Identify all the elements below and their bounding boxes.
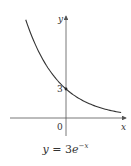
caption-exponent: −x: [79, 142, 89, 150]
y-axis-label: y: [57, 14, 64, 24]
caption-eq: = 3: [49, 143, 72, 156]
y-intercept-label: 3: [57, 84, 63, 94]
y-intercept-point: [65, 88, 68, 91]
curve-3e-neg-x: [26, 20, 121, 113]
function-caption: y = 3e−x: [0, 142, 131, 156]
origin-label: 0: [57, 122, 63, 132]
x-axis-label: x: [121, 122, 126, 132]
